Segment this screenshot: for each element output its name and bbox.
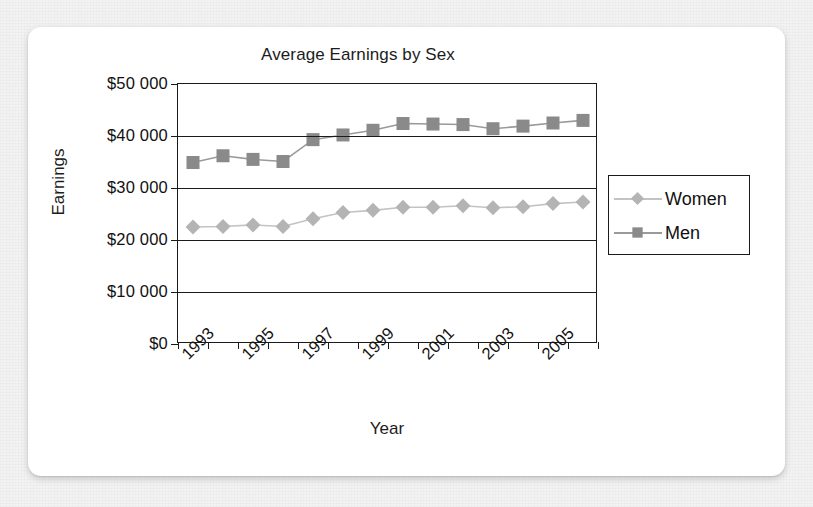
legend-item-men: Men bbox=[609, 219, 749, 247]
data-point-men bbox=[187, 156, 200, 169]
y-axis-tick-label: $50 000 bbox=[107, 74, 168, 93]
gridline bbox=[178, 188, 596, 189]
screenshot-root: Average Earnings by Sex Earnings $50 000… bbox=[0, 0, 813, 507]
data-point-women bbox=[486, 200, 501, 215]
data-point-women bbox=[516, 199, 531, 214]
data-point-men bbox=[217, 149, 230, 162]
y-axis-tick-label: $30 000 bbox=[107, 178, 168, 197]
legend-item-women: Women bbox=[609, 185, 749, 213]
plot-area bbox=[177, 83, 597, 343]
y-axis-tick-label: $20 000 bbox=[107, 230, 168, 249]
y-axis-tick bbox=[171, 84, 178, 85]
data-point-men bbox=[337, 128, 350, 141]
y-axis-tick bbox=[171, 188, 178, 189]
y-axis-tick-label: $10 000 bbox=[107, 282, 168, 301]
gridline bbox=[178, 136, 596, 137]
data-point-men bbox=[547, 117, 560, 130]
data-point-men bbox=[247, 153, 260, 166]
data-point-women bbox=[366, 203, 381, 218]
legend-label-women: Women bbox=[665, 189, 727, 210]
gridline bbox=[178, 292, 596, 293]
data-point-women bbox=[576, 195, 591, 210]
series-layer bbox=[178, 84, 598, 344]
data-point-men bbox=[517, 120, 530, 133]
chart-card: Average Earnings by Sex Earnings $50 000… bbox=[28, 27, 785, 476]
data-point-men bbox=[457, 118, 470, 131]
y-axis-tick bbox=[171, 292, 178, 293]
data-point-women bbox=[546, 196, 561, 211]
chart-title: Average Earnings by Sex bbox=[148, 45, 568, 65]
y-axis-tick bbox=[171, 344, 178, 345]
data-point-women bbox=[246, 217, 261, 232]
data-point-women bbox=[426, 200, 441, 215]
y-axis-tick bbox=[171, 136, 178, 137]
data-point-men bbox=[367, 124, 380, 137]
data-point-men bbox=[487, 122, 500, 135]
chart-legend: Women Men bbox=[608, 175, 750, 255]
data-point-women bbox=[456, 198, 471, 213]
legend-label-men: Men bbox=[665, 223, 700, 244]
x-axis-title: Year bbox=[177, 419, 597, 439]
y-axis-tick bbox=[171, 240, 178, 241]
data-point-women bbox=[276, 219, 291, 234]
square-icon bbox=[609, 220, 665, 246]
data-point-women bbox=[216, 219, 231, 234]
chart-figure: Average Earnings by Sex Earnings $50 000… bbox=[28, 27, 785, 476]
gridline bbox=[178, 240, 596, 241]
data-point-men bbox=[427, 118, 440, 131]
data-point-women bbox=[306, 211, 321, 226]
y-axis-tick-label: $0 bbox=[149, 334, 168, 353]
y-axis-tick-labels: $50 000$40 000$30 000$20 000$10 000$0 bbox=[56, 83, 168, 343]
data-point-women bbox=[396, 200, 411, 215]
diamond-icon bbox=[609, 186, 665, 212]
data-point-women bbox=[336, 205, 351, 220]
data-point-women bbox=[186, 220, 201, 235]
data-point-men bbox=[397, 117, 410, 130]
data-point-men bbox=[277, 155, 290, 168]
x-axis-tick bbox=[598, 342, 599, 349]
data-point-men bbox=[577, 114, 590, 127]
y-axis-tick-label: $40 000 bbox=[107, 126, 168, 145]
